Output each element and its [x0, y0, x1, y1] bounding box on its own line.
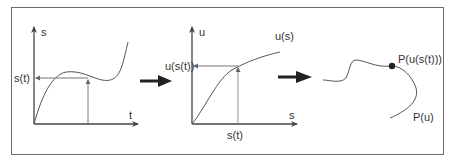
- panel-s-of-t: s t s(t): [14, 26, 138, 124]
- p-curve: [323, 60, 417, 118]
- u-curve-label: u(s): [275, 30, 294, 42]
- panel-u-of-s: u s u(s) u(s(t)) s(t): [165, 26, 297, 141]
- point-marker: [389, 63, 395, 69]
- y-axis-label: s: [41, 26, 47, 38]
- y-axis-label: u: [199, 26, 205, 38]
- transition-arrow-2: [278, 71, 312, 83]
- u-curve: [192, 52, 280, 124]
- transition-arrow-1: [140, 75, 172, 87]
- point-label: P(u(s(t))): [398, 53, 442, 65]
- s-curve: [34, 42, 128, 124]
- reparameterization-diagram: s t s(t) u s u(s) u(s(t)) s(t) P(u(s(t))…: [0, 0, 455, 164]
- s-of-t-label: s(t): [227, 129, 243, 141]
- x-axis-label: t: [129, 109, 132, 121]
- curve-label: P(u): [413, 111, 434, 123]
- u-of-s-of-t-label: u(s(t)): [165, 60, 194, 72]
- panel-p-of-u: P(u(s(t))) P(u): [323, 53, 442, 123]
- x-axis-label: s: [289, 109, 295, 121]
- s-of-t-label: s(t): [14, 72, 30, 84]
